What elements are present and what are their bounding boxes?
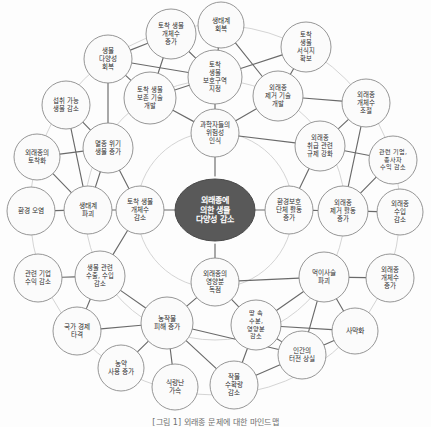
node-label-line: 지정 (209, 84, 221, 93)
node-n02[interactable]: 환경보호단체 활동증가 (265, 186, 313, 234)
node-n14[interactable]: 생물 관련수출, 수입감소 (75, 251, 125, 301)
node-label-line: 터전 상실 (289, 354, 315, 363)
node-n03[interactable]: 외래종의영양분독점 (191, 258, 239, 306)
node-n33[interactable]: 생물다양성회복 (84, 35, 132, 83)
node-label-line: 위험성 (206, 128, 224, 137)
node-label-line: 취급 관련 (307, 141, 333, 150)
edge-n04-n14 (113, 231, 128, 255)
node-n11[interactable]: 인간의터전 상실 (278, 331, 326, 379)
node-label-line: 규제 강화 (307, 149, 333, 158)
node-n32[interactable]: 섭취 가능생물 감소 (42, 81, 90, 129)
edge-n10-n12 (281, 327, 332, 330)
edge-n13-n28 (101, 325, 141, 329)
node-label-line: 외래종 (311, 133, 329, 142)
node-n24[interactable]: 외래종개체수증가 (366, 254, 414, 302)
node-label-line: 개체수 (162, 29, 180, 38)
node-label-line: 멸종 위기 (95, 139, 121, 148)
node-n17[interactable]: 토착 생물보존 기술개발 (124, 72, 176, 124)
node-n08[interactable]: 외래종제거 활동증가 (318, 186, 368, 236)
node-n06[interactable]: 외래종제거 기술개발 (253, 71, 303, 121)
edge-n01-n17 (173, 110, 194, 121)
node-label-line: 감소 (134, 214, 146, 222)
node-label-line: 생태계 (79, 201, 97, 210)
node-label-line: 수입 (394, 208, 406, 216)
node-label-line: 회복 (215, 25, 227, 33)
node-label-line: 식량난 (166, 378, 184, 387)
node-n07[interactable]: 외래종취급 관련규제 강화 (295, 121, 345, 171)
edge-n13-n27 (137, 341, 148, 352)
node-label-line: 서식지 (297, 46, 315, 55)
edge-n10-n11 (324, 340, 334, 345)
mindmap-canvas: 과학자들의위험성인식환경보호단체 활동증가외래종의영양분독점토착 생물개체수감소… (0, 0, 431, 427)
node-label-line: 토착화 (28, 157, 46, 165)
edge-n13-n25 (186, 341, 216, 369)
node-n16[interactable]: 멸종 위기생물 증가 (83, 123, 133, 173)
node-n22[interactable]: 관련 기업,종사자수익 감소 (369, 136, 417, 184)
node-label-line: 가속 (169, 386, 181, 395)
edge-n01-n06 (236, 109, 257, 121)
node-label-line: 수확량 (225, 380, 243, 389)
node-label-line: 환경보호 (277, 197, 301, 206)
edge-n09-n10 (336, 299, 343, 311)
node-n21[interactable]: 외래종개체수조절 (342, 79, 390, 127)
edge-n03-n13 (187, 298, 197, 307)
node-label-line: 관련 기업 (25, 269, 51, 278)
node-n28[interactable]: 국가 경제타격 (53, 307, 101, 355)
node-label-line: 개체수 (381, 273, 399, 282)
node-n27[interactable]: 농약사용 증가 (98, 345, 144, 391)
node-n20[interactable]: 토착생물서식지확보 (281, 22, 331, 72)
node-label-line: 생물 감소 (53, 104, 79, 113)
node-label-line: 땅 속 (249, 309, 263, 317)
node-label-line: 생물 (102, 46, 114, 55)
edge-n06-n21 (303, 98, 342, 101)
node-n10[interactable]: 사막화 (332, 308, 378, 354)
node-label-line: 생물 관련 (87, 263, 113, 271)
node-n12[interactable]: 땅 속수분,영양분감소 (231, 300, 281, 350)
node-label-line: 외래종의 (25, 148, 49, 157)
node-label-line: 증가 (384, 281, 396, 290)
edge-n16-n31 (60, 151, 83, 154)
node-n19[interactable]: 생태계회복 (198, 2, 244, 48)
node-label-line: 영양분 (247, 325, 265, 332)
center-node[interactable]: 외래종에의한 생물다양성 감소 (175, 179, 255, 241)
edge-n08-n21 (348, 126, 361, 186)
node-n29[interactable]: 관련 기업수익 감소 (14, 254, 62, 302)
node-label-line: 수분, (249, 317, 263, 325)
node-n26[interactable]: 식량난가속 (152, 364, 198, 410)
node-label-line: 토착 (300, 31, 312, 39)
edge-n09-n12 (276, 291, 303, 310)
node-label-line: 증가 (337, 214, 349, 223)
node-n18[interactable]: 토착 생물개체수증가 (146, 9, 196, 59)
node-label-line: 피해 증가 (154, 322, 180, 331)
edge-n11-n12 (277, 339, 282, 342)
node-label-line: 농약 (115, 359, 127, 368)
node-label-line: 개체수 (131, 205, 149, 214)
node-label-line: 인식 (209, 136, 221, 145)
node-label-line: 토착 생물 (137, 85, 163, 94)
node-n31[interactable]: 외래종의토착화 (14, 134, 60, 180)
node-label-line: 사막화 (346, 326, 365, 335)
node-label-line: 개발 (272, 99, 284, 108)
node-label-line: 먹이사슬 (312, 268, 336, 277)
node-n04[interactable]: 토착 생물개체수감소 (116, 186, 164, 234)
node-label-line: 개체수 (357, 98, 375, 107)
node-n30[interactable]: 환경 오염 (7, 187, 55, 235)
node-label-line: 보호구역 (203, 76, 227, 85)
edge-n11-n25 (256, 365, 280, 376)
node-n15[interactable]: 생태계파괴 (64, 186, 112, 234)
node-label-line: 농작물 (158, 314, 176, 323)
node-label-line: 외래종 (357, 90, 375, 99)
edge-n07-n21 (338, 119, 348, 129)
node-n05[interactable]: 토착생물보호구역지정 (188, 50, 242, 104)
node-label-line: 작물 (228, 372, 240, 381)
node-n25[interactable]: 작물수확량감소 (210, 361, 258, 409)
node-n09[interactable]: 먹이사슬파괴 (299, 252, 349, 302)
node-n23[interactable]: 외래종수입감소 (377, 189, 423, 235)
edge-n15-n31 (53, 174, 71, 193)
node-label-line: 인간의 (293, 346, 311, 355)
edge-n17-n33 (126, 75, 131, 80)
node-n01[interactable]: 과학자들의위험성인식 (191, 109, 239, 157)
node-label-line: 다양성 (99, 54, 117, 63)
node-label-line: 토착 생물 (158, 21, 184, 30)
node-n13[interactable]: 농작물피해 증가 (141, 297, 193, 349)
